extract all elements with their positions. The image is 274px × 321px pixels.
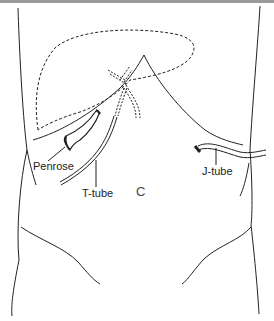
j-tube-end [195,146,200,152]
label-j-tube: J-tube [202,165,233,177]
t-tube-external-2 [61,117,117,185]
torso-left-outline [12,8,27,316]
penrose-leader [48,147,65,161]
bile-duct-lower-2 [126,85,140,118]
label-t-tube: T-tube [82,187,113,199]
bile-duct-lower [122,85,136,118]
penrose-end [96,110,100,114]
right-flank-inner [240,163,249,196]
torso-right-outline [250,6,260,314]
penrose-tip [65,136,70,150]
right-inguinal-line [182,227,251,284]
label-penrose: Penrose [33,160,74,172]
diagram-canvas: Penrose T-tube J-tube C [0,0,274,321]
left-inguinal-line [21,227,100,284]
abdomen-illustration: Penrose T-tube J-tube C [0,0,274,321]
navel-mark: C [136,184,145,199]
costal-margin [33,55,243,145]
